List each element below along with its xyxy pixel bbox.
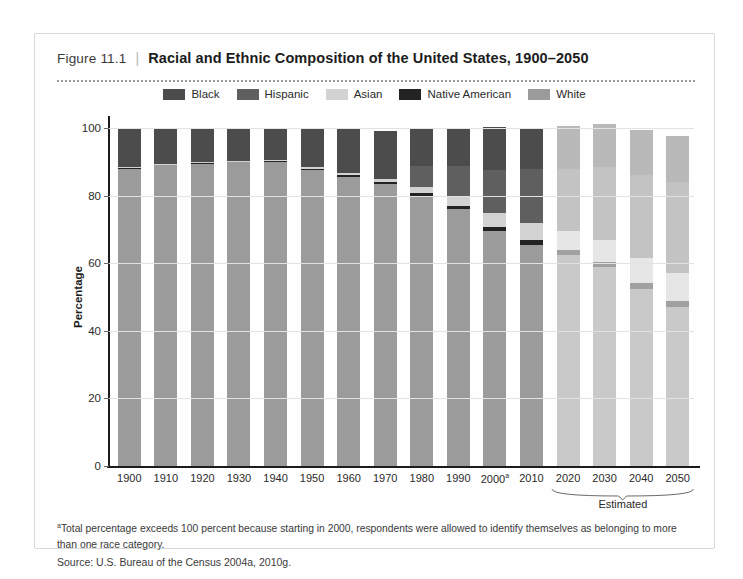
bar-segment-hispanic	[557, 169, 580, 232]
bar-segment-native-american	[520, 240, 543, 244]
y-tick-label: 20	[88, 392, 101, 404]
bar-segment-black	[227, 128, 250, 161]
bar-segment-hispanic	[447, 166, 470, 196]
legend-item-white: White	[528, 88, 585, 100]
x-axis-label-text: 1950	[300, 472, 324, 484]
gridline	[109, 128, 694, 129]
y-tick-label: 80	[88, 190, 101, 202]
x-axis-label-text: 2050	[665, 472, 689, 484]
bar-1940	[264, 128, 287, 466]
legend-swatch-icon	[528, 89, 550, 100]
legend-swatch-icon	[237, 89, 259, 100]
bar-segment-asian	[520, 223, 543, 241]
bar-segment-hispanic	[630, 175, 653, 258]
x-axis-label-footnote-marker: a	[505, 472, 509, 479]
figure-card: Figure 11.1 | Racial and Ethnic Composit…	[34, 33, 715, 549]
bar-segment-hispanic	[483, 170, 506, 212]
legend-swatch-icon	[399, 89, 421, 100]
x-axis-label-1990: 1990	[446, 472, 470, 484]
bar-segment-asian	[666, 273, 689, 301]
bar-segment-black	[520, 128, 543, 169]
x-axis-label-text: 1990	[446, 472, 470, 484]
bar-segment-native-american	[630, 283, 653, 288]
bar-segment-native-american	[666, 301, 689, 307]
legend-item-asian: Asian	[326, 88, 383, 100]
title-separator: |	[136, 50, 140, 66]
legend-label: Asian	[354, 88, 383, 100]
bar-group	[109, 128, 694, 466]
bar-2040	[630, 128, 653, 466]
title-divider	[57, 80, 696, 82]
bar-segment-black	[154, 128, 177, 163]
figure-footnote: aTotal percentage exceeds 100 percent be…	[57, 521, 692, 553]
bar-1920	[191, 128, 214, 466]
bar-segment-white	[191, 164, 214, 467]
x-axis-label-2020: 2020	[556, 472, 580, 484]
bar-2050	[666, 128, 689, 466]
bar-1900	[118, 128, 141, 466]
bar-segment-white	[337, 177, 360, 466]
bar-segment-black	[447, 128, 470, 166]
legend-label: Native American	[427, 88, 511, 100]
x-axis-label-text: 1960	[336, 472, 360, 484]
x-axis-label-text: 2020	[556, 472, 580, 484]
x-axis-label-2040: 2040	[629, 472, 653, 484]
bar-segment-black	[374, 131, 397, 179]
plot-area: Percentage 020406080100	[109, 128, 694, 466]
bar-segment-white	[374, 184, 397, 466]
chart-legend: BlackHispanicAsianNative AmericanWhite	[35, 88, 714, 100]
gridline	[109, 331, 694, 332]
bar-segment-black	[557, 126, 580, 168]
x-axis-label-text: 2040	[629, 472, 653, 484]
bar-segment-black	[118, 128, 141, 167]
x-axis-label-text: 1910	[154, 472, 178, 484]
bar-segment-asian	[374, 179, 397, 182]
x-axis-label-text: 1940	[263, 472, 287, 484]
bar-segment-asian	[483, 213, 506, 227]
bar-segment-white	[557, 255, 580, 466]
bar-1970	[374, 128, 397, 466]
bar-segment-native-american	[118, 168, 141, 169]
legend-item-native-american: Native American	[399, 88, 511, 100]
x-axis-label-1920: 1920	[190, 472, 214, 484]
x-axis-label-text: 2010	[519, 472, 543, 484]
bar-segment-native-american	[227, 161, 250, 162]
gridline	[109, 263, 694, 264]
figure-source: Source: U.S. Bureau of the Census 2004a,…	[57, 556, 291, 568]
y-tick-mark	[104, 196, 109, 197]
legend-swatch-icon	[163, 89, 185, 100]
x-axis-label-2010: 2010	[519, 472, 543, 484]
bar-segment-native-american	[483, 227, 506, 231]
bar-segment-white	[154, 165, 177, 466]
x-axis-label-1930: 1930	[227, 472, 251, 484]
bar-segment-white	[520, 245, 543, 466]
y-tick-label: 40	[88, 325, 101, 337]
x-axis-label-text: 1970	[373, 472, 397, 484]
bar-segment-native-american	[447, 206, 470, 209]
y-tick-mark	[104, 331, 109, 332]
bar-segment-asian	[191, 162, 214, 163]
bar-segment-black	[483, 127, 506, 171]
gridline	[109, 196, 694, 197]
bar-segment-black	[337, 128, 360, 173]
bar-segment-white	[301, 170, 324, 466]
bar-segment-asian	[557, 231, 580, 250]
bar-segment-black	[666, 136, 689, 182]
x-axis-label-1960: 1960	[336, 472, 360, 484]
bar-segment-black	[593, 124, 616, 167]
bar-segment-asian	[593, 240, 616, 262]
bar-segment-white	[118, 169, 141, 466]
bar-segment-asian	[447, 196, 470, 206]
y-tick-label: 0	[95, 460, 101, 472]
x-axis-label-text: 2000	[481, 473, 505, 485]
y-tick-mark	[104, 128, 109, 129]
x-axis-labels: 1900191019201930194019501960197019801990…	[109, 472, 694, 488]
bar-1990	[447, 128, 470, 466]
bar-segment-black	[191, 128, 214, 162]
bar-segment-asian	[227, 161, 250, 162]
bar-1960	[337, 128, 360, 466]
legend-label: Black	[191, 88, 219, 100]
x-axis-label-text: 1900	[117, 472, 141, 484]
x-axis-label-1900: 1900	[117, 472, 141, 484]
figure-title: Racial and Ethnic Composition of the Uni…	[148, 50, 588, 66]
